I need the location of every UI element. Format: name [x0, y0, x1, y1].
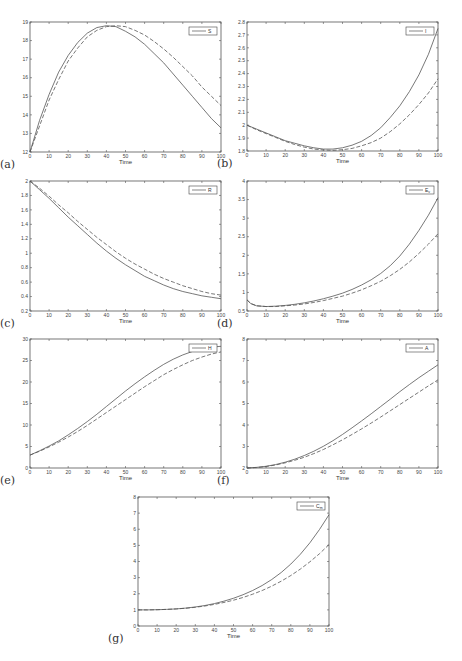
- x-axis-label: Time: [336, 318, 350, 324]
- x-axis-label: Time: [336, 158, 350, 164]
- legend: H: [189, 344, 217, 352]
- x-tick-label: 90: [416, 469, 422, 475]
- x-tick-label: 60: [359, 312, 365, 318]
- x-tick-label: 90: [416, 312, 422, 318]
- y-tick-label: 6: [133, 526, 136, 532]
- x-axis-label: Time: [119, 159, 133, 165]
- y-tick-label: 0: [25, 465, 28, 471]
- x-tick-label: 30: [302, 312, 308, 318]
- x-tick-label: 20: [65, 312, 71, 318]
- panel-c: 01020304050607080901000.20.40.60.811.21.…: [0, 178, 225, 330]
- x-axis-label: Time: [336, 475, 350, 481]
- x-tick-label: 20: [65, 469, 71, 475]
- y-tick-label: 16: [22, 74, 28, 80]
- panel-b: 01020304050607080901001.81.922.12.22.32.…: [217, 19, 442, 170]
- x-tick-label: 100: [434, 469, 443, 475]
- y-tick-label: 2: [133, 590, 136, 596]
- y-tick-label: 20: [22, 379, 28, 385]
- x-tick-label: 10: [46, 469, 52, 475]
- y-tick-label: 30: [22, 336, 28, 342]
- y-tick-label: 6: [242, 379, 245, 385]
- y-tick-label: 2.5: [238, 233, 245, 239]
- y-tick-label: 17: [22, 56, 28, 62]
- y-tick-label: 4: [133, 558, 136, 564]
- x-tick-label: 80: [180, 469, 186, 475]
- y-tick-label: 2.7: [238, 32, 245, 38]
- x-tick-label: 20: [282, 152, 288, 158]
- y-tick-label: 1: [242, 289, 245, 295]
- x-tick-label: 80: [180, 312, 186, 318]
- y-tick-label: 1: [25, 250, 28, 256]
- y-tick-label: 1.6: [21, 207, 28, 213]
- x-tick-label: 30: [302, 469, 308, 475]
- plot-frame: [30, 339, 221, 468]
- y-tick-label: 10: [22, 422, 28, 428]
- plot-frame: [30, 22, 221, 152]
- x-tick-label: 70: [378, 152, 384, 158]
- x-axis-label: Time: [119, 318, 133, 324]
- y-tick-label: 15: [22, 400, 28, 406]
- x-tick-label: 30: [85, 312, 91, 318]
- x-tick-label: 30: [85, 153, 91, 159]
- x-tick-label: 10: [46, 153, 52, 159]
- y-tick-label: 2.4: [238, 70, 245, 76]
- figure-canvas: 01020304050607080901001213141516171819Ti…: [0, 0, 462, 661]
- x-tick-label: 40: [321, 152, 327, 158]
- x-tick-label: 70: [378, 469, 384, 475]
- x-tick-label: 90: [199, 469, 205, 475]
- x-tick-label: 90: [416, 152, 422, 158]
- y-tick-label: 4: [242, 178, 245, 184]
- y-tick-label: 0.6: [21, 279, 28, 285]
- x-tick-label: 100: [325, 627, 334, 633]
- y-tick-label: 0.5: [238, 308, 245, 314]
- y-tick-label: 1: [133, 607, 136, 613]
- y-tick-label: 8: [133, 494, 136, 500]
- x-tick-label: 10: [46, 312, 52, 318]
- panel-d: 01020304050607080901000.511.522.533.54Ti…: [217, 178, 442, 330]
- panel-a: 01020304050607080901001213141516171819Ti…: [0, 19, 225, 171]
- x-tick-label: 20: [282, 469, 288, 475]
- y-tick-label: 15: [22, 93, 28, 99]
- panel-label: (a): [0, 158, 15, 171]
- x-tick-label: 60: [359, 152, 365, 158]
- panel-label: (c): [0, 317, 15, 330]
- x-tick-label: 30: [85, 469, 91, 475]
- panel-f: 01020304050607080901002345678TimeA(f): [217, 336, 442, 487]
- x-tick-label: 100: [434, 152, 443, 158]
- x-tick-label: 70: [378, 312, 384, 318]
- y-tick-label: 2.5: [238, 57, 245, 63]
- legend-label: R: [208, 187, 212, 193]
- x-tick-label: 20: [282, 312, 288, 318]
- x-tick-label: 20: [65, 153, 71, 159]
- y-tick-label: 12: [22, 149, 28, 155]
- x-tick-label: 10: [263, 312, 269, 318]
- x-axis-label: Time: [227, 633, 241, 639]
- x-tick-label: 60: [142, 312, 148, 318]
- x-tick-label: 40: [321, 312, 327, 318]
- x-tick-label: 70: [161, 312, 167, 318]
- panel-label: (e): [0, 474, 15, 487]
- panel-label: (d): [217, 317, 233, 330]
- y-tick-label: 2: [242, 122, 245, 128]
- x-tick-label: 80: [397, 469, 403, 475]
- y-tick-label: 7: [242, 357, 245, 363]
- x-tick-label: 90: [199, 312, 205, 318]
- y-tick-label: 5: [25, 443, 28, 449]
- x-tick-label: 40: [321, 469, 327, 475]
- y-tick-label: 3: [242, 443, 245, 449]
- y-tick-label: 25: [22, 357, 28, 363]
- y-tick-label: 1.8: [238, 148, 245, 154]
- x-tick-label: 10: [154, 627, 160, 633]
- x-tick-label: 10: [263, 152, 269, 158]
- y-tick-label: 3: [133, 574, 136, 580]
- x-tick-label: 90: [307, 627, 313, 633]
- y-tick-label: 0.2: [21, 308, 28, 314]
- x-tick-label: 40: [104, 469, 110, 475]
- y-tick-label: 4: [242, 422, 245, 428]
- x-tick-label: 60: [250, 627, 256, 633]
- legend: Cm: [297, 502, 325, 510]
- y-tick-label: 2: [242, 465, 245, 471]
- y-tick-label: 8: [242, 336, 245, 342]
- x-tick-label: 40: [212, 627, 218, 633]
- x-tick-label: 0: [246, 152, 249, 158]
